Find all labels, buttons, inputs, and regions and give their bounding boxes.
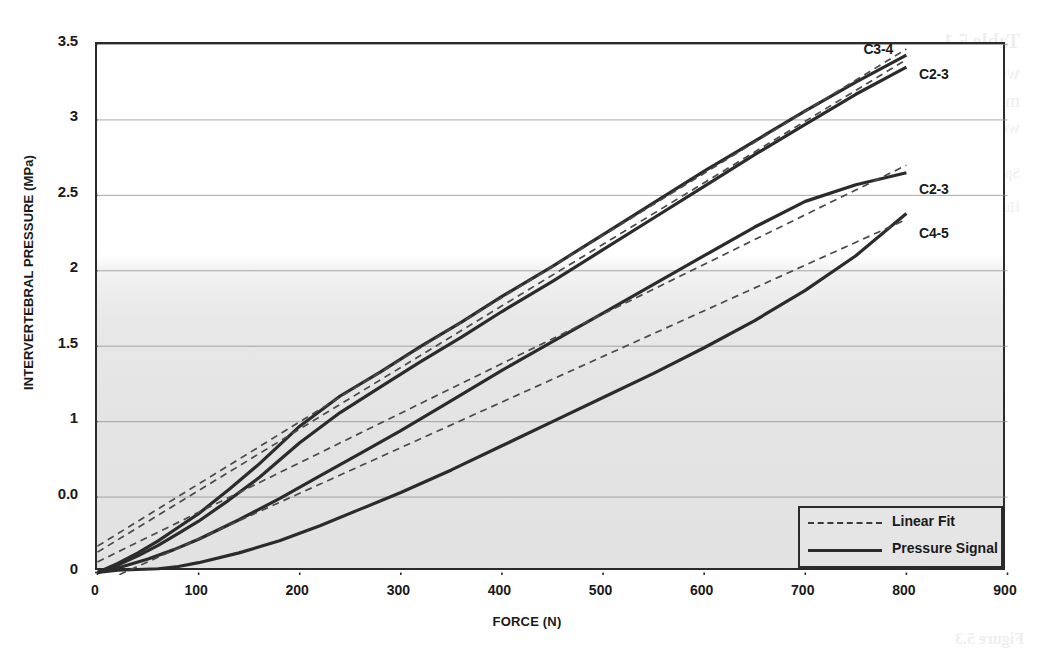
series-line-pressure-signal <box>97 172 906 572</box>
x-axis-tick-label: 900 <box>975 582 1035 598</box>
plot-canvas <box>95 42 1010 575</box>
legend-label-linear-fit: Linear Fit <box>892 513 955 529</box>
x-axis-tick-label: 200 <box>267 582 327 598</box>
figure-intervertebral-pressure-vs-force: 00.011.522.533.5 01002003004005006007008… <box>0 0 1054 655</box>
legend-swatch-solid-icon <box>808 549 882 552</box>
legend: Linear Fit Pressure Signal <box>798 506 1003 568</box>
y-axis-title: INTERVERTEBRAL PRESSURE (MPa) <box>21 113 36 433</box>
legend-swatch-dashed-icon <box>808 522 882 524</box>
series-label-c2-3: C2-3 <box>919 66 949 82</box>
legend-label-pressure-signal: Pressure Signal <box>892 540 998 556</box>
series-label-c2-3: C2-3 <box>919 181 949 197</box>
legend-item-linear-fit: Linear Fit <box>808 511 998 537</box>
x-axis-tick-label: 700 <box>773 582 833 598</box>
series-label-c4-5: C4-5 <box>919 225 949 241</box>
legend-item-pressure-signal: Pressure Signal <box>808 538 998 564</box>
x-axis-tick-label: 600 <box>672 582 732 598</box>
x-axis-tick-label: 400 <box>469 582 529 598</box>
series-line-pressure-signal <box>97 213 906 572</box>
x-axis-tick-label: 0 <box>65 582 125 598</box>
plot-area <box>95 42 1005 570</box>
series-label-c3-4: C3-4 <box>863 41 893 57</box>
x-axis-title: FORCE (N) <box>0 614 1054 629</box>
x-axis-tick-label: 300 <box>368 582 428 598</box>
y-axis-tick-label: 0 <box>18 560 78 577</box>
series-line-linear-fit <box>97 49 906 546</box>
series-line-linear-fit <box>97 219 906 575</box>
x-axis-tick-label: 100 <box>166 582 226 598</box>
series-line-linear-fit <box>97 165 906 562</box>
y-axis-tick-label: 3.5 <box>18 32 78 49</box>
x-axis-tick-label: 800 <box>874 582 934 598</box>
series-line-linear-fit <box>97 59 906 552</box>
y-axis-tick-label: 0.0 <box>18 485 78 502</box>
x-axis-tick-label: 500 <box>571 582 631 598</box>
